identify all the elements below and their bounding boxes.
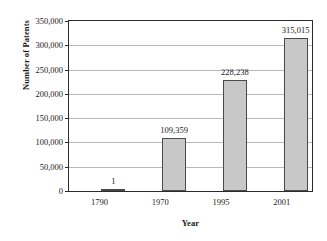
y-axis-tick-mark: [65, 118, 69, 119]
bar-1790: [101, 189, 125, 192]
x-axis-tick-label-2001: 2001: [273, 197, 290, 207]
plot-area: 050,000100,000150,000200,000250,000300,0…: [68, 20, 313, 192]
y-axis-tick-mark: [65, 45, 69, 46]
x-axis-tick-label-1970: 1970: [152, 197, 169, 207]
y-axis-tick-label: 200,000: [35, 89, 63, 99]
x-axis-tick-label-1790: 1790: [91, 197, 108, 207]
gridline: [69, 118, 312, 119]
y-axis-tick-mark: [65, 167, 69, 168]
bar-value-label-1790: 1: [111, 176, 115, 186]
y-axis-tick-mark: [65, 21, 69, 22]
y-axis-tick-mark: [65, 191, 69, 192]
bar-value-label-1995: 228,238: [221, 67, 249, 77]
y-axis-tick-mark: [65, 142, 69, 143]
y-axis-tick-mark: [65, 70, 69, 71]
y-axis-tick-mark: [65, 94, 69, 95]
y-axis-title: Number of Patents: [21, 0, 31, 125]
y-axis-tick-label: 100,000: [35, 137, 63, 147]
bar-value-label-1970: 109,359: [160, 125, 188, 135]
bar-1995: [223, 80, 247, 191]
x-axis-title: Year: [68, 218, 313, 228]
gridline: [69, 70, 312, 71]
patents-bar-chart: Number of Patents 050,000100,000150,0002…: [0, 0, 327, 241]
gridline: [69, 167, 312, 168]
bar-2001: [284, 38, 308, 191]
y-axis-tick-label: 350,000: [35, 16, 63, 26]
y-axis-tick-label: 150,000: [35, 113, 63, 123]
y-axis-tick-label: 0: [59, 186, 63, 196]
bar-value-label-2001: 315,015: [282, 25, 310, 35]
y-axis-tick-label: 50,000: [40, 162, 63, 172]
y-axis-tick-label: 250,000: [35, 65, 63, 75]
gridline: [69, 45, 312, 46]
gridline: [69, 142, 312, 143]
bar-1970: [162, 138, 186, 191]
x-axis-tick-label-1995: 1995: [212, 197, 229, 207]
y-axis-tick-label: 300,000: [35, 40, 63, 50]
gridline: [69, 94, 312, 95]
